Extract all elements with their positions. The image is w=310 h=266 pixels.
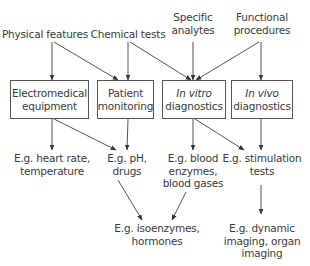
source-chemical-tests: Chemical tests (91, 28, 166, 41)
example-heart-rate: E.g. heart rate, temperature (14, 152, 90, 177)
label-line: E.g. heart rate, (14, 152, 90, 165)
label-line: Chemical tests (91, 28, 166, 41)
source-functional-procedures: Functional procedures (234, 11, 291, 36)
box-line-italic: In vivo (233, 87, 290, 100)
box-electromedical-equipment: Electromedical equipment (10, 80, 89, 119)
label-line: E.g. stimulation (223, 152, 302, 165)
label-line: enzymes, (163, 165, 224, 178)
arrow-patient-to-ph (127, 119, 128, 150)
arrow-chemical-to-invitro (130, 42, 191, 80)
arrow-physical-to-patient (54, 42, 118, 80)
label-line: tests (223, 165, 302, 178)
example-blood-enzymes: E.g. blood enzymes, blood gases (163, 152, 224, 190)
label-line: E.g. dynamic (224, 222, 301, 235)
arrow-blood-to-iso (172, 192, 186, 220)
source-specific-analytes: Specific analytes (171, 11, 214, 36)
example-ph-drugs: E.g. pH, drugs (107, 152, 147, 177)
label-line: temperature (14, 165, 90, 178)
label-line: imaging (224, 247, 301, 260)
arrow-electromedical-to-ph (54, 119, 116, 150)
box-line-italic: In vitro (165, 87, 222, 100)
label-line: E.g. isoenzymes, (114, 222, 199, 235)
label-line: E.g. blood (163, 152, 224, 165)
label-line: Specific (171, 11, 214, 24)
box-line: monitoring (98, 100, 153, 113)
label-line: Functional (234, 11, 291, 24)
label-line: blood gases (163, 177, 224, 190)
arrow-invitro-to-stim (195, 119, 244, 150)
source-physical-features: Physical features (2, 28, 88, 41)
label-line: Physical features (2, 28, 88, 41)
box-line: Patient (98, 87, 153, 100)
example-dynamic-imaging: E.g. dynamic imaging, organ imaging (224, 222, 301, 260)
edges (52, 42, 261, 220)
label-line: imaging, organ (224, 235, 301, 248)
arrow-functional-to-invitro (196, 42, 259, 80)
box-line: Electromedical (12, 87, 87, 100)
label-line: E.g. pH, (107, 152, 147, 165)
label-line: drugs (107, 165, 147, 178)
box-patient-monitoring: Patient monitoring (97, 80, 154, 119)
box-line: diagnostics (233, 100, 290, 113)
example-isoenzymes-hormones: E.g. isoenzymes, hormones (114, 222, 199, 247)
label-line: procedures (234, 24, 291, 37)
box-line: equipment (12, 100, 87, 113)
box-in-vitro-diagnostics: In vitro diagnostics (162, 80, 226, 119)
arrow-ph-to-iso (118, 180, 142, 220)
label-line: analytes (171, 24, 214, 37)
box-in-vivo-diagnostics: In vivo diagnostics (231, 80, 293, 119)
example-stimulation-tests: E.g. stimulation tests (223, 152, 302, 177)
label-line: hormones (114, 235, 199, 248)
box-line: diagnostics (165, 100, 222, 113)
